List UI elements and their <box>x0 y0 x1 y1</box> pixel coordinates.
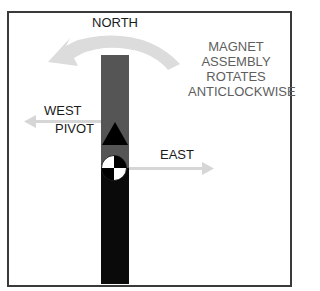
rotation-note-line: ASSEMBLY <box>188 54 284 69</box>
rotation-note-line: ANTICLOCKWISE <box>188 84 284 99</box>
rotation-note-line: MAGNET <box>188 39 284 54</box>
center-of-gravity-icon <box>102 156 127 181</box>
west-label: WEST <box>44 104 82 118</box>
north-label: NORTH <box>92 16 138 30</box>
east-arrow-icon <box>128 162 214 175</box>
rotation-note-line: ROTATES <box>188 69 284 84</box>
east-label: EAST <box>160 148 194 162</box>
pivot-label: PIVOT <box>55 122 94 136</box>
rotation-note: MAGNET ASSEMBLY ROTATES ANTICLOCKWISE <box>188 39 284 99</box>
